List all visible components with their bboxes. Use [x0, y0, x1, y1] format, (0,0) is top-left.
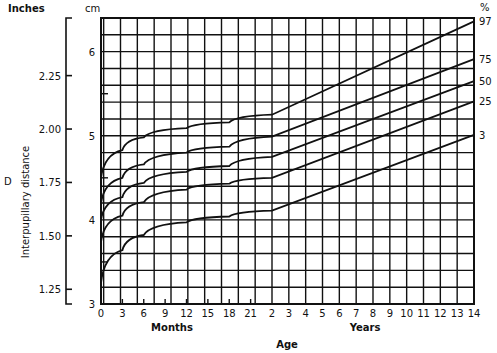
- cm-tick-label: 4: [89, 215, 95, 226]
- axis-ticks: [101, 94, 251, 304]
- inch-tick-label: 1.50: [39, 231, 61, 242]
- month-tick-label: 9: [162, 308, 168, 319]
- inch-tick-label: 1.25: [39, 284, 61, 295]
- month-tick-label: 6: [141, 308, 147, 319]
- x-tick-labels: 036912151821234567891011121314: [98, 308, 481, 319]
- year-tick-label: 7: [353, 308, 359, 319]
- percentile-label-97: 97: [479, 16, 492, 27]
- inch-tick-label: 2.00: [39, 124, 61, 135]
- year-tick-label: 12: [434, 308, 447, 319]
- percentile-labels: 977550253: [479, 16, 492, 141]
- x-axis-label: Age: [276, 339, 298, 350]
- cm-tick-label: 3: [89, 299, 95, 310]
- months-label: Months: [151, 322, 193, 333]
- interpupillary-distance-chart: 1.251.501.752.002.25 Inches cm % Interpu…: [0, 0, 497, 353]
- cm-tick-label: 5: [89, 131, 95, 142]
- inches-unit-label: Inches: [8, 3, 45, 14]
- percent-unit-label: %: [480, 2, 490, 13]
- year-tick-label: 11: [417, 308, 430, 319]
- chart-grid: [101, 18, 474, 304]
- years-label: Years: [349, 322, 381, 333]
- month-tick-label: 3: [119, 308, 125, 319]
- inch-tick-label: 2.25: [39, 71, 61, 82]
- percentile-curve-25: [101, 101, 474, 241]
- year-tick-label: 5: [319, 308, 325, 319]
- month-tick-label: 18: [223, 308, 236, 319]
- inches-axis: [66, 18, 72, 304]
- y-axis-label: Interpupillary distance: [20, 146, 31, 259]
- year-tick-label: 4: [302, 308, 308, 319]
- inch-tick-label: 1.75: [39, 177, 61, 188]
- year-tick-label: 10: [400, 308, 413, 319]
- inch-ticks: 1.251.501.752.002.25: [39, 71, 72, 296]
- side-letter: D: [4, 176, 12, 187]
- month-tick-label: 15: [202, 308, 215, 319]
- year-tick-label: 8: [370, 308, 376, 319]
- percentile-curve-97: [101, 21, 474, 177]
- percentile-label-3: 3: [479, 130, 485, 141]
- year-tick-label: 3: [286, 308, 292, 319]
- year-tick-label: 13: [451, 308, 464, 319]
- plot-frame: [101, 18, 474, 304]
- year-tick-label: 6: [336, 308, 342, 319]
- cm-tick-label: 6: [89, 47, 95, 58]
- year-tick-label: 9: [387, 308, 393, 319]
- year-tick-label: 2: [269, 308, 275, 319]
- percentile-label-75: 75: [479, 54, 492, 65]
- percentile-label-25: 25: [479, 96, 492, 107]
- cm-unit-label: cm: [85, 3, 100, 14]
- month-tick-label: 21: [244, 308, 257, 319]
- month-tick-label: 12: [180, 308, 193, 319]
- percentile-label-50: 50: [479, 76, 492, 87]
- year-tick-label: 14: [468, 308, 481, 319]
- cm-tick-labels: 3456: [89, 47, 95, 310]
- month-tick-label: 0: [98, 308, 104, 319]
